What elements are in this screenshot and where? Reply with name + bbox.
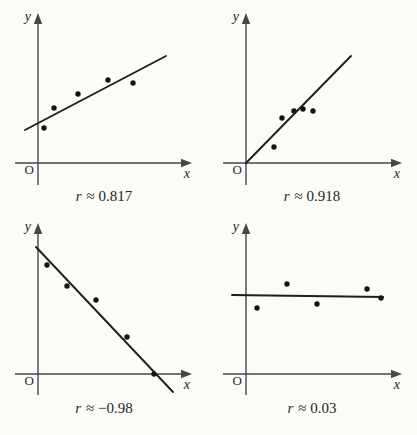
y-axis-label: y [23, 219, 32, 234]
data-point [130, 80, 135, 85]
data-point [364, 286, 369, 291]
data-point [300, 106, 305, 111]
scatter-plot-r-003: yxO [208, 212, 417, 402]
data-point [254, 305, 259, 310]
data-point [284, 281, 289, 286]
r-value: ≈ 0.817 [87, 188, 133, 204]
y-axis-arrow-icon [242, 223, 250, 234]
caption-r-003: r≈ 0.03 [208, 400, 416, 417]
x-axis-label: x [393, 377, 401, 392]
scatter-plot-r-0817: yxO [0, 0, 208, 188]
data-point [291, 108, 296, 113]
caption-r-neg098: r≈ −0.98 [0, 400, 208, 417]
y-axis-label: y [231, 219, 240, 234]
r-symbol: r [76, 188, 82, 204]
caption-r-0817: r≈ 0.817 [0, 188, 208, 205]
origin-label: O [233, 373, 242, 388]
data-point [279, 115, 284, 120]
data-point [51, 105, 56, 110]
origin-label: O [25, 373, 34, 388]
r-value: ≈ 0.918 [295, 188, 341, 204]
r-symbol: r [75, 400, 81, 416]
y-axis-arrow-icon [34, 13, 42, 24]
r-value: ≈ −0.98 [86, 400, 133, 416]
origin-label: O [233, 162, 242, 177]
x-axis-label: x [183, 377, 191, 392]
data-point [105, 77, 110, 82]
trend-line [232, 295, 383, 297]
r-symbol: r [287, 400, 293, 416]
caption-r-0918: r≈ 0.918 [208, 188, 416, 205]
data-point [44, 262, 49, 267]
r-symbol: r [284, 188, 290, 204]
data-point [310, 108, 315, 113]
data-point [93, 297, 98, 302]
data-point [378, 295, 383, 300]
data-point [271, 144, 276, 149]
data-point [124, 334, 129, 339]
y-axis-arrow-icon [34, 223, 42, 234]
correlation-scatter-figure: yxO yxO yxO yxO r≈ 0.817 r≈ 0.918 r≈ −0.… [0, 0, 417, 435]
y-axis-arrow-icon [242, 13, 250, 24]
data-point [314, 301, 319, 306]
r-value: ≈ 0.03 [298, 400, 336, 416]
data-point [75, 91, 80, 96]
y-axis-label: y [231, 9, 240, 24]
x-axis-label: x [183, 166, 191, 181]
scatter-plot-r-neg098: yxO [0, 212, 208, 402]
y-axis-label: y [23, 9, 32, 24]
trend-line [246, 56, 351, 163]
data-point [41, 125, 46, 130]
trend-line [36, 247, 173, 392]
scatter-plot-r-0918: yxO [208, 0, 417, 188]
origin-label: O [25, 162, 34, 177]
data-point [64, 283, 69, 288]
data-point [151, 371, 156, 376]
x-axis-label: x [393, 166, 401, 181]
trend-line [25, 56, 166, 130]
